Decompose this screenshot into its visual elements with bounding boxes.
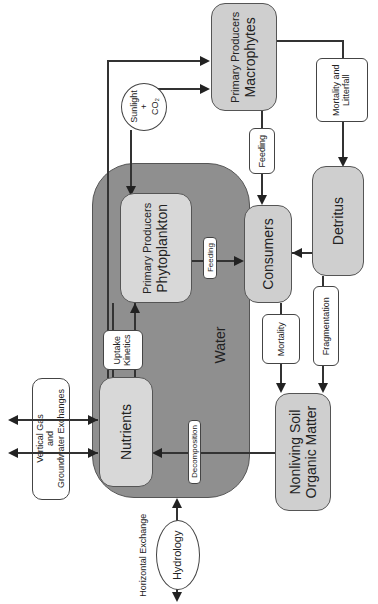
nutrient-to-macro-line-h <box>107 60 207 62</box>
horizontal-exchange-label: Horizontal Exchange <box>136 510 152 600</box>
sunlight-label: Sunlight <box>128 91 138 124</box>
arrow-to-nsom-from-consumers <box>276 383 286 393</box>
exchange-arrow-out-2 <box>8 448 18 458</box>
nutrients-node: Nutrients <box>99 377 153 487</box>
feeding-phyto-label: Feeding <box>203 237 217 279</box>
sunlight-co2-node: Sunlight + CO₂ <box>121 83 167 131</box>
hydrology-node: Hydrology <box>156 520 200 590</box>
nsom-to-nutrients-line <box>160 452 275 454</box>
phytoplankton-node: Primary Producers Phytoplankton <box>120 193 192 303</box>
fragmentation-label: Fragmentation <box>313 286 339 366</box>
decomposition-label: Decomposition <box>188 420 201 484</box>
mortality-label: Mortality <box>262 314 300 364</box>
exchange-arrow-in-1 <box>88 415 98 425</box>
exchange-line-2 <box>12 452 98 454</box>
macro-to-detritus-line-h <box>277 40 343 42</box>
exchange-arrow-in-2 <box>88 448 98 458</box>
nonliving-soil-organic-matter-node: Nonliving Soil Organic Matter <box>275 393 331 511</box>
arrow-to-macrophytes-2 <box>200 84 210 94</box>
arrow-to-macrophytes-1 <box>200 56 210 66</box>
hydrology-arrow-out <box>172 592 182 602</box>
sunlight-to-phyto-line <box>130 130 132 190</box>
feeding-macro-label: Feeding <box>249 128 275 174</box>
detritus-node: Detritus <box>312 166 364 276</box>
sunlight-to-macro-line <box>156 88 206 90</box>
uptake-kinetics-label: Uptake Kinetics <box>103 330 143 370</box>
arrow-to-nsom-from-detritus <box>318 383 328 393</box>
mortality-litterfall-label: Mortality and Litterfall <box>316 58 368 122</box>
exchange-line-1 <box>12 419 98 421</box>
macrophytes-node: Primary Producers Macrophytes <box>211 3 277 111</box>
arrow-to-consumers-from-phyto <box>234 256 244 266</box>
vertical-exchanges-node: Vertical Gas and Groundwater Exchanges <box>32 378 70 500</box>
arrow-to-phytoplankton-uptake <box>130 303 140 313</box>
exchange-arrow-out-1 <box>8 415 18 425</box>
water-label: Water <box>200 330 240 360</box>
arrow-to-consumers-from-detritus <box>292 248 302 258</box>
arrow-to-nutrients-from-nsom <box>152 448 162 458</box>
consumers-node: Consumers <box>244 205 292 303</box>
arrow-to-consumers-from-macro <box>257 195 267 205</box>
hydrology-arrow-in <box>172 498 182 508</box>
